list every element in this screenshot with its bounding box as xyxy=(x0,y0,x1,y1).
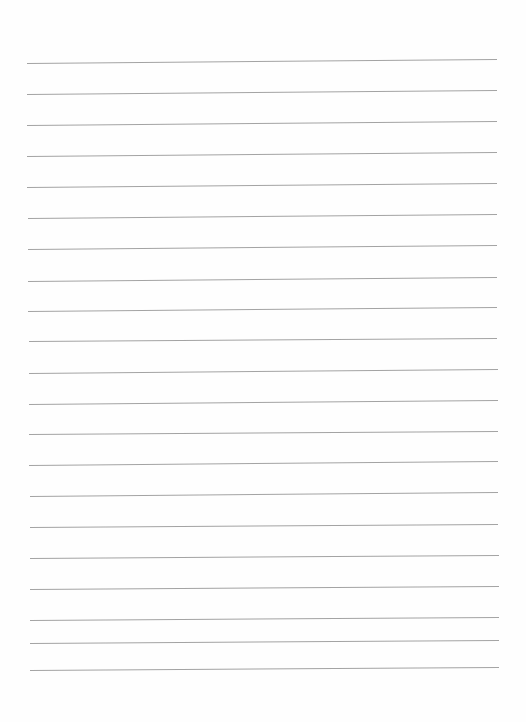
ruled-line xyxy=(28,245,497,250)
ruled-line xyxy=(27,183,497,188)
ruled-line xyxy=(29,431,498,435)
ruled-line xyxy=(30,640,499,644)
ruled-line xyxy=(29,461,498,466)
ruled-line xyxy=(29,400,498,405)
ruled-line xyxy=(30,524,498,528)
ruled-line xyxy=(29,338,497,342)
ruled-line xyxy=(30,667,499,671)
ruled-line xyxy=(28,307,497,312)
ruled-line xyxy=(30,617,499,621)
ruled-line xyxy=(28,277,497,282)
ruled-line xyxy=(29,369,498,374)
ruled-line xyxy=(27,121,497,126)
ruled-line xyxy=(27,152,497,157)
ruled-line xyxy=(30,555,499,559)
ruled-line xyxy=(30,586,499,590)
ruled-line xyxy=(30,492,498,497)
ruled-line xyxy=(27,90,497,95)
ruled-line xyxy=(27,59,497,64)
lined-paper-page xyxy=(0,0,526,722)
ruled-line xyxy=(28,214,497,219)
